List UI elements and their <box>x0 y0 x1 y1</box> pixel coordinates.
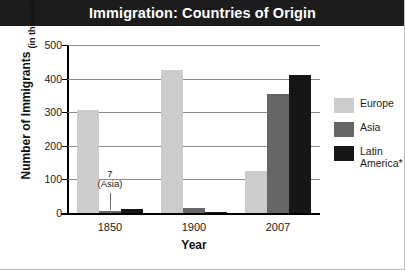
bar-europe-1900 <box>161 70 183 213</box>
x-axis-line <box>61 213 320 215</box>
chart-legend: Europe Asia Latin America* <box>334 98 404 178</box>
y-axis-tick-label: 400 <box>32 73 62 85</box>
chart-title: Immigration: Countries of Origin <box>89 5 316 21</box>
y-axis-tick-label: 200 <box>32 140 62 152</box>
y-axis-tick <box>62 112 68 113</box>
x-axis-tick-label: 1900 <box>164 221 224 233</box>
bar-asia-1900 <box>183 208 205 213</box>
annotation-callout: 7(Asia) <box>80 169 140 189</box>
y-axis-tick-label: 500 <box>32 39 62 51</box>
bar-latin-america-1900 <box>205 212 227 214</box>
y-axis-tick <box>62 45 68 46</box>
y-axis-tick <box>62 146 68 147</box>
gridline <box>68 79 320 80</box>
bar-europe-2007 <box>245 171 267 213</box>
y-axis-tick <box>62 213 68 214</box>
legend-swatch-latin-america <box>334 146 354 161</box>
legend-swatch-europe <box>334 98 354 113</box>
legend-item-asia: Asia <box>334 122 404 137</box>
chart-title-banner: Immigration: Countries of Origin <box>0 0 405 26</box>
legend-label-asia: Asia <box>360 122 380 134</box>
x-axis-tick-label: 1850 <box>80 221 140 233</box>
legend-swatch-asia <box>334 122 354 137</box>
bar-latin-america-2007 <box>289 75 311 213</box>
legend-item-europe: Europe <box>334 98 404 113</box>
bar-asia-1850 <box>99 211 121 213</box>
gridline <box>68 45 320 46</box>
bar-latin-america-1850 <box>121 209 143 213</box>
bar-asia-2007 <box>267 94 289 213</box>
chart-figure: Immigration: Countries of Origin Number … <box>0 0 405 270</box>
bar-europe-1850 <box>77 110 99 213</box>
y-axis-tick <box>62 179 68 180</box>
x-axis-title: Year <box>68 238 320 252</box>
legend-label-europe: Europe <box>360 98 394 110</box>
annotation-note: (Asia) <box>80 179 140 189</box>
annotation-leader-line <box>110 193 111 210</box>
legend-label-latin-america: Latin America* <box>360 146 403 169</box>
legend-item-latin-america: Latin America* <box>334 146 404 169</box>
y-axis-tick-label: 300 <box>32 106 62 118</box>
y-axis-title-main: Number of Immigrants <box>19 51 33 179</box>
y-axis-line <box>67 45 69 214</box>
y-axis-tick <box>62 79 68 80</box>
x-axis-tick-label: 2007 <box>248 221 308 233</box>
y-axis-tick-label: 0 <box>32 207 62 219</box>
y-axis-tick-label: 100 <box>32 173 62 185</box>
